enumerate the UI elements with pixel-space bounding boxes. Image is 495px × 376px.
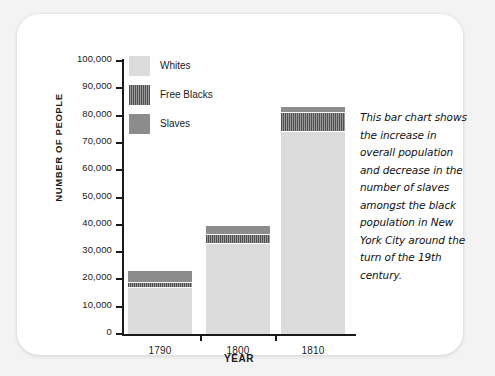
bar-segment-slaves[interactable] bbox=[281, 107, 345, 111]
bar-segment-free-blacks[interactable] bbox=[281, 112, 345, 132]
legend-swatch bbox=[129, 85, 150, 105]
y-axis-tick-mark bbox=[116, 60, 122, 62]
y-axis-tick-label: 100,000 bbox=[77, 53, 112, 64]
x-axis-line bbox=[122, 334, 356, 336]
y-axis-tick-label: 60,000 bbox=[82, 162, 112, 173]
y-axis-tick-label: 50,000 bbox=[82, 190, 112, 201]
legend-label: Free Blacks bbox=[160, 89, 213, 100]
x-axis-tick-mark bbox=[200, 334, 202, 341]
y-axis-tick-label: 10,000 bbox=[82, 299, 112, 310]
bar-1810[interactable] bbox=[281, 107, 345, 334]
bar-segment-whites[interactable] bbox=[128, 288, 192, 334]
y-axis-tick-label: 80,000 bbox=[82, 108, 112, 119]
legend-label: Slaves bbox=[160, 118, 190, 129]
y-axis-tick-mark bbox=[116, 87, 122, 89]
bar-segment-slaves[interactable] bbox=[128, 271, 192, 282]
y-axis-tick-label: 70,000 bbox=[82, 135, 112, 146]
y-axis-tick-label: 90,000 bbox=[82, 80, 112, 91]
legend-swatch bbox=[129, 114, 150, 134]
y-axis-tick-mark bbox=[116, 333, 122, 335]
plot-area: 100,00090,00080,00070,00060,00050,00040,… bbox=[122, 61, 354, 334]
y-axis-tick-mark bbox=[116, 169, 122, 171]
y-axis-tick-mark bbox=[116, 197, 122, 199]
x-axis-tick-label: 1810 bbox=[278, 345, 348, 356]
x-axis-tick-label: 1800 bbox=[203, 345, 273, 356]
y-axis-tick-label: 40,000 bbox=[82, 217, 112, 228]
chart-annotation: This bar chart shows the increase in ove… bbox=[360, 109, 472, 284]
bar-segment-whites[interactable] bbox=[281, 132, 345, 334]
y-axis-tick-mark bbox=[116, 306, 122, 308]
chart-card: NUMBER OF PEOPLE YEAR 100,00090,00080,00… bbox=[17, 14, 463, 355]
x-axis-tick-mark bbox=[275, 334, 277, 341]
bar-1790[interactable] bbox=[128, 271, 192, 334]
bar-segment-whites[interactable] bbox=[206, 244, 270, 334]
y-axis-tick-mark bbox=[116, 278, 122, 280]
y-axis-tick-mark bbox=[116, 115, 122, 117]
y-axis-tick-label: 0 bbox=[107, 326, 112, 337]
legend-swatch bbox=[129, 56, 150, 76]
y-axis-tick-mark bbox=[116, 224, 122, 226]
bar-segment-slaves[interactable] bbox=[206, 226, 270, 234]
bar-segment-free-blacks[interactable] bbox=[206, 234, 270, 244]
bar-segment-free-blacks[interactable] bbox=[128, 282, 192, 287]
y-axis-title: NUMBER OF PEOPLE bbox=[53, 88, 64, 208]
y-axis-tick-mark bbox=[116, 142, 122, 144]
bar-1800[interactable] bbox=[206, 226, 270, 334]
y-axis-line bbox=[122, 59, 124, 336]
y-axis-tick-mark bbox=[116, 251, 122, 253]
x-axis-tick-label: 1790 bbox=[125, 345, 195, 356]
y-axis-tick-label: 20,000 bbox=[82, 271, 112, 282]
y-axis-tick-label: 30,000 bbox=[82, 244, 112, 255]
legend-label: Whites bbox=[160, 60, 191, 71]
